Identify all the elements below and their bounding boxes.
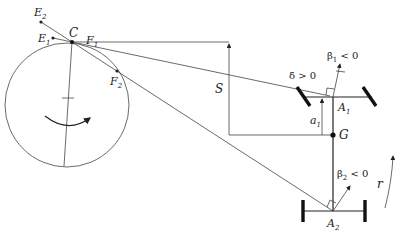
label-a2-point: A2 — [326, 217, 340, 232]
diagram-canvas: E2 E1 C F1 F2 S δ̇ > 0 β̇1 < 0 A1 a1 G r… — [0, 0, 403, 234]
label-c: C — [69, 26, 78, 40]
center-of-gravity-point — [330, 132, 335, 137]
label-beta2-dot: β̇2 < 0 — [337, 168, 368, 182]
yaw-rate-arrow-icon — [385, 156, 393, 208]
label-g: G — [339, 128, 349, 142]
point-e1 — [51, 36, 54, 39]
beta1-velocity-arrow — [333, 64, 340, 97]
label-delta-dot: δ̇ > 0 — [289, 70, 316, 81]
point-f2 — [115, 69, 118, 72]
label-r: r — [377, 177, 384, 191]
label-beta1-dot: β̇1 < 0 — [327, 50, 358, 64]
beta2-velocity-arrow — [333, 186, 350, 211]
circle-radius-line — [64, 42, 72, 166]
right-angle-marker-a1 — [326, 88, 334, 95]
beta1-tick — [336, 71, 345, 72]
line-c-f2-a2 — [72, 42, 333, 211]
right-angle-marker-a2 — [327, 200, 336, 207]
vehicle-geometry-diagram: E2 E1 C F1 F2 S δ̇ > 0 β̇1 < 0 A1 a1 G r… — [0, 0, 403, 234]
label-f1: F1 — [85, 34, 98, 49]
label-e2: E2 — [33, 6, 47, 21]
label-e1: E1 — [37, 32, 51, 47]
label-a1-point: A1 — [337, 101, 350, 116]
label-a1-distance: a1 — [310, 114, 321, 129]
reference-circle — [5, 43, 129, 167]
label-s: S — [215, 82, 223, 96]
label-f2: F2 — [109, 75, 123, 90]
point-c — [70, 40, 74, 44]
